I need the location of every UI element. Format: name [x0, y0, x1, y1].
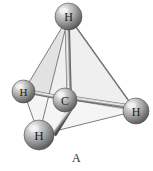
figure-caption-label: A: [0, 151, 153, 165]
atom-h-top[interactable]: H: [55, 3, 82, 30]
atom-label-h-right: H: [132, 105, 141, 119]
atom-c-center[interactable]: C: [53, 88, 77, 112]
atom-h-right[interactable]: H: [123, 98, 149, 124]
tetrahedron-faces: [24, 17, 137, 136]
atom-h-bottom[interactable]: H: [24, 120, 54, 150]
atom-label-h-left: H: [20, 86, 28, 98]
molecule-diagram: H H H C: [0, 0, 153, 171]
molecular-model-figure: H H H C: [0, 0, 153, 171]
atom-label-c-center: C: [61, 94, 69, 108]
atom-label-h-bottom: H: [34, 128, 43, 143]
atom-h-left[interactable]: H: [12, 80, 35, 103]
atom-label-h-top: H: [64, 10, 73, 24]
